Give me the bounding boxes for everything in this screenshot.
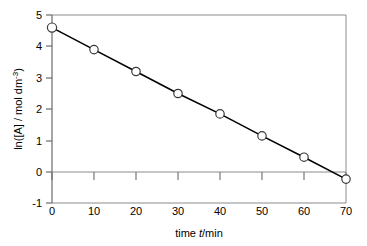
y-axis-title: ln([A] / mol dm-3) — [11, 68, 25, 150]
x-axis-title: time t/min — [175, 227, 223, 239]
x-tick-label: 50 — [256, 205, 268, 217]
y-tick-label: 3 — [36, 72, 42, 84]
y-tick-label: 4 — [36, 40, 42, 52]
data-point — [47, 23, 56, 32]
y-tick-label: 2 — [36, 103, 42, 115]
data-point — [342, 175, 350, 183]
data-point — [90, 45, 98, 53]
data-point — [258, 132, 266, 140]
x-tick-label: 30 — [172, 205, 184, 217]
linear-plot: 5 4 3 2 1 0 -1 0 10 20 30 40 50 60 — [0, 0, 367, 246]
x-tick-label: 20 — [130, 205, 142, 217]
data-point — [174, 89, 182, 97]
y-tick-label: 5 — [36, 9, 42, 21]
y-axis-tick-labels: 5 4 3 2 1 0 -1 — [32, 9, 42, 209]
x-tick-label: 70 — [340, 205, 352, 217]
chart-figure: 5 4 3 2 1 0 -1 0 10 20 30 40 50 60 — [0, 0, 367, 246]
x-axis-title-pre: time — [175, 227, 199, 239]
x-axis-ticks — [52, 172, 346, 180]
x-tick-label: 60 — [298, 205, 310, 217]
x-axis-title-post: /min — [202, 227, 223, 239]
y-axis-title-pre: ln([A] / mol dm — [12, 79, 24, 150]
x-tick-label: 0 — [49, 205, 55, 217]
x-tick-label: 10 — [88, 205, 100, 217]
y-tick-label: 1 — [36, 135, 42, 147]
y-axis-ticks — [46, 15, 52, 203]
x-axis-tick-labels: 0 10 20 30 40 50 60 70 — [49, 205, 352, 217]
data-point — [132, 67, 140, 75]
x-tick-label: 40 — [214, 205, 226, 217]
plot-frame — [52, 15, 346, 203]
data-point — [300, 153, 308, 161]
svg-text:ln([A] / mol dm-3): ln([A] / mol dm-3) — [11, 68, 25, 150]
y-tick-label: 0 — [36, 166, 42, 178]
y-tick-label: -1 — [32, 197, 42, 209]
y-axis-title-post: ) — [12, 68, 24, 72]
svg-text:time t/min: time t/min — [175, 227, 223, 239]
data-point — [216, 110, 224, 118]
